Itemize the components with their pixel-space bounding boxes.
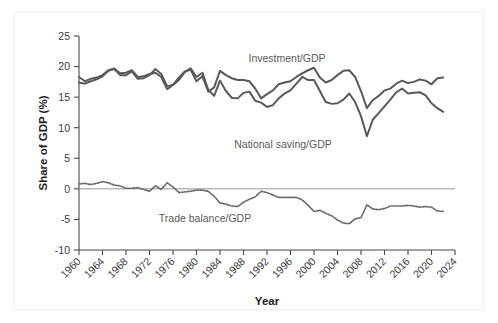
y-tick-label: 25: [58, 30, 70, 42]
annotation-investment-gdp: Investment/GDP: [248, 52, 325, 64]
x-tick-label: 1984: [199, 255, 224, 280]
annotation-trade-balance-gdp: Trade balance/GDP: [159, 212, 251, 224]
economic-indicators-line-chart: -10-50510152025 196019641968197219761980…: [0, 0, 498, 323]
y-axis-title: Share of GDP (%): [37, 95, 49, 190]
x-tick-label: 2008: [340, 255, 365, 280]
chart-container: -10-50510152025 196019641968197219761980…: [0, 0, 498, 323]
x-tick-label: 2020: [410, 255, 435, 280]
x-tick-label: 2004: [316, 255, 341, 280]
y-tick-label: 15: [58, 91, 70, 103]
y-tick-label: 0: [64, 183, 70, 195]
series-line-national-saving-gdp: [79, 68, 443, 136]
x-axis-ticks: 1960196419681972197619801984198819921996…: [58, 250, 459, 280]
x-tick-label: 1964: [81, 255, 106, 280]
x-tick-label: 1976: [152, 255, 177, 280]
x-tick-label: 2012: [363, 255, 388, 280]
y-tick-label: 10: [58, 122, 70, 134]
series-line-trade-balance-gdp: [79, 182, 443, 224]
x-tick-label: 1992: [246, 255, 271, 280]
y-tick-label: -5: [61, 213, 70, 225]
x-axis-title: Year: [255, 295, 280, 307]
x-tick-label: 2000: [293, 255, 318, 280]
y-tick-label: -10: [55, 244, 70, 256]
x-tick-label: 2024: [434, 255, 459, 280]
x-tick-label: 2016: [387, 255, 412, 280]
y-tick-label: 20: [58, 60, 70, 72]
x-tick-label: 1972: [128, 255, 153, 280]
x-tick-label: 1980: [175, 255, 200, 280]
x-tick-label: 1968: [105, 255, 130, 280]
y-tick-label: 5: [64, 152, 70, 164]
x-tick-label: 1996: [269, 255, 294, 280]
x-tick-label: 1988: [222, 255, 247, 280]
y-axis-ticks: -10-50510152025: [55, 30, 79, 256]
annotation-national-saving-gdp: National saving/GDP: [234, 138, 331, 150]
x-tick-label: 1960: [58, 255, 83, 280]
